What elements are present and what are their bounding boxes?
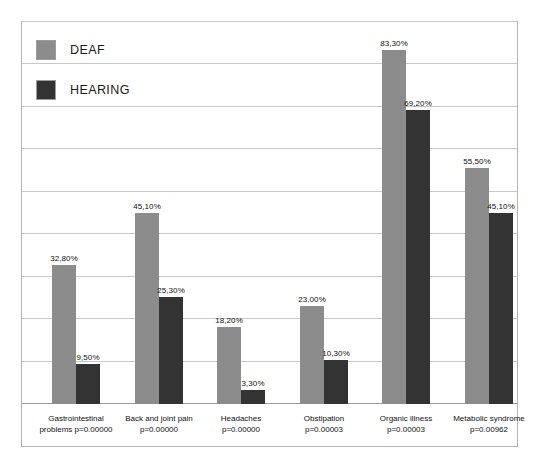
legend-swatch-deaf	[36, 40, 56, 60]
bar-deaf: 55,50%	[465, 168, 489, 404]
bar-value-label: 55,50%	[463, 157, 491, 166]
bar-group: 18,20%3,30%	[217, 22, 265, 404]
category-label: Obstipation p=0.00003	[283, 414, 366, 435]
bar-value-label: 25,30%	[157, 286, 185, 295]
bar-hearing: 69,20%	[406, 110, 430, 404]
category-axis: Gastrointestinal problems p=0.00000Back …	[22, 404, 517, 448]
category-label: Gastrointestinal problems p=0.00000	[35, 414, 118, 435]
bar-hearing: 45,10%	[489, 213, 513, 404]
bar-value-label: 83,30%	[380, 39, 408, 48]
bar-value-label: 3,30%	[241, 379, 264, 388]
bar-value-label: 23,00%	[298, 295, 326, 304]
plot-area: DEAF HEARING 32,80%9,50%45,10%25,30%18,2…	[22, 22, 517, 404]
category-label: Headaches p=0.00000	[200, 414, 283, 435]
bar-value-label: 45,10%	[133, 202, 161, 211]
bar-group: 23,00%10,30%	[300, 22, 348, 404]
legend-swatch-hearing	[36, 80, 56, 100]
category-label: Organic illness p=0.00003	[365, 414, 448, 435]
bar-deaf: 23,00%	[300, 306, 324, 404]
bar-hearing: 9,50%	[76, 364, 100, 404]
chart-legend: DEAF HEARING	[36, 30, 130, 110]
legend-label-deaf: DEAF	[70, 43, 105, 57]
bar-value-label: 45,10%	[487, 202, 515, 211]
bar-hearing: 10,30%	[324, 360, 348, 404]
category-label: Back and joint pain p=0.00000	[118, 414, 201, 435]
bar-group: 83,30%69,20%	[382, 22, 430, 404]
bar-deaf: 45,10%	[135, 213, 159, 404]
bar-value-label: 32,80%	[50, 254, 78, 263]
category-label: Metabolic syndrome p=0.00962	[448, 414, 531, 435]
bar-value-label: 18,20%	[215, 316, 243, 325]
bar-hearing: 25,30%	[159, 297, 183, 404]
bar-deaf: 32,80%	[52, 265, 76, 404]
legend-label-hearing: HEARING	[70, 83, 130, 97]
legend-item-deaf: DEAF	[36, 30, 130, 70]
bar-deaf: 83,30%	[382, 50, 406, 404]
bar-value-label: 10,30%	[322, 349, 350, 358]
bar-deaf: 18,20%	[217, 327, 241, 404]
legend-item-hearing: HEARING	[36, 70, 130, 110]
chart-frame: DEAF HEARING 32,80%9,50%45,10%25,30%18,2…	[21, 21, 518, 447]
bar-group: 55,50%45,10%	[465, 22, 513, 404]
bar-group: 45,10%25,30%	[135, 22, 183, 404]
bar-value-label: 69,20%	[404, 99, 432, 108]
bar-hearing: 3,30%	[241, 390, 265, 404]
bar-value-label: 9,50%	[76, 353, 99, 362]
